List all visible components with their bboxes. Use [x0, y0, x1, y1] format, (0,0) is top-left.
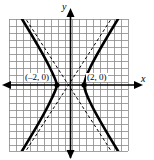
y-axis-label: y [62, 2, 66, 12]
left-vertex-label: (–2, 0) [24, 73, 50, 82]
vertex-point-left [54, 82, 59, 87]
y-axis [67, 8, 75, 159]
x-axis-arrow-left [2, 81, 11, 89]
vertex-point-right [81, 82, 86, 87]
y-axis-arrow-down [67, 150, 75, 159]
y-axis-arrow-up [67, 8, 75, 17]
right-vertex-label: (2, 0) [86, 73, 108, 82]
hyperbola-graph-figure: y x (–2, 0) (2, 0) [0, 0, 154, 160]
x-axis-label: x [141, 74, 145, 84]
